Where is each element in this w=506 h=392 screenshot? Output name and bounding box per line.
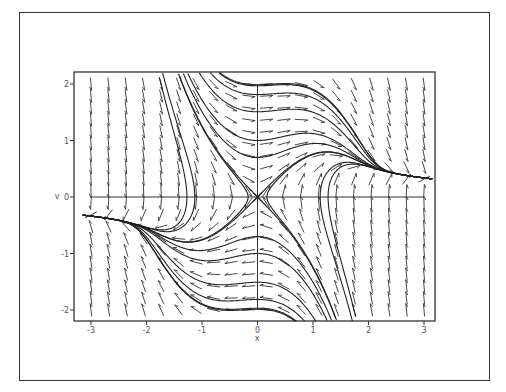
- arrowhead: [251, 169, 255, 170]
- field-arrow: [282, 185, 285, 198]
- arrowhead: [260, 260, 264, 261]
- field-arrow: [318, 185, 319, 198]
- field-arrow: [207, 285, 220, 287]
- trajectory-curve: [83, 215, 332, 320]
- field-arrow: [297, 257, 305, 267]
- y-tick-label: 2: [64, 80, 69, 89]
- field-arrow: [313, 105, 324, 111]
- field-arrow: [126, 196, 127, 209]
- arrowhead: [251, 145, 255, 146]
- trajectory-curve: [183, 74, 432, 179]
- trajectory-curve: [83, 215, 305, 321]
- arrowhead: [190, 260, 194, 261]
- field-arrow: [175, 305, 183, 315]
- field-arrow: [371, 185, 372, 198]
- field-arrow: [313, 80, 324, 87]
- field-arrow: [332, 79, 340, 89]
- x-axis-ticks: -3-2-10123: [87, 321, 427, 335]
- arrowhead: [260, 224, 264, 225]
- field-arrow: [226, 140, 236, 148]
- x-tick-label: 1: [310, 326, 315, 335]
- field-arrow: [225, 93, 237, 99]
- field-arrow: [123, 209, 129, 221]
- field-arrow: [314, 163, 324, 172]
- field-arrow: [243, 165, 255, 169]
- field-arrow: [279, 247, 289, 255]
- field-arrow: [172, 238, 185, 239]
- x-tick-label: 3: [421, 326, 426, 335]
- field-arrow: [353, 185, 354, 198]
- trajectory-curve: [220, 73, 432, 179]
- arrowhead: [321, 133, 325, 134]
- arrowhead: [302, 185, 303, 189]
- field-arrow: [91, 196, 92, 209]
- field-arrow: [336, 185, 337, 198]
- field-arrow: [157, 246, 165, 256]
- arrowhead: [251, 121, 255, 122]
- y-tick-label: -2: [61, 306, 69, 315]
- field-arrow: [209, 222, 219, 231]
- arrowhead: [191, 306, 195, 307]
- field-arrow: [161, 196, 162, 209]
- field-arrow: [210, 126, 218, 136]
- field-arrow: [278, 295, 290, 301]
- field-arrow: [178, 196, 179, 209]
- y-tick-label: 0: [64, 193, 69, 202]
- field-arrow: [143, 185, 144, 198]
- field-arrow: [213, 197, 215, 210]
- arrowhead: [260, 296, 264, 297]
- trajectory-curve: [219, 73, 433, 179]
- field-arrow: [389, 185, 390, 198]
- trajectory-curve: [83, 215, 295, 321]
- phase-portrait-plot: -3-2-10123 -2-1012 x v: [0, 0, 506, 392]
- field-arrow: [260, 249, 273, 251]
- arrowhead: [260, 248, 264, 249]
- field-arrow: [332, 115, 341, 124]
- field-arrow: [406, 185, 407, 198]
- field-arrow: [159, 209, 164, 221]
- field-arrow: [300, 185, 302, 198]
- field-arrow: [332, 91, 340, 101]
- field-arrow: [330, 155, 343, 156]
- field-arrow: [369, 173, 374, 185]
- y-axis-ticks: -2-1012: [61, 80, 74, 315]
- field-arrow: [225, 298, 238, 299]
- field-arrow: [316, 173, 321, 185]
- trajectory-curve: [83, 77, 187, 230]
- arrowhead: [207, 296, 211, 297]
- field-arrow: [174, 258, 184, 266]
- field-arrow: [297, 305, 306, 314]
- trajectory-curve: [83, 215, 316, 321]
- field-arrow: [260, 225, 272, 229]
- field-arrow: [313, 117, 325, 122]
- field-arrow: [295, 119, 308, 120]
- field-arrow: [242, 107, 255, 109]
- field-arrow: [331, 127, 341, 135]
- x-tick-label: 2: [366, 326, 371, 335]
- field-arrow: [260, 297, 273, 298]
- arrowhead: [212, 206, 213, 210]
- arrowhead: [304, 97, 308, 98]
- field-arrow: [386, 173, 392, 185]
- arrowhead: [285, 185, 286, 189]
- field-arrow: [243, 176, 254, 182]
- field-arrow: [191, 222, 201, 231]
- field-arrow: [260, 261, 273, 263]
- field-arrow: [350, 138, 358, 148]
- field-arrow: [141, 209, 146, 221]
- field-arrow: [176, 209, 181, 221]
- field-arrow: [226, 128, 237, 135]
- field-arrow: [226, 116, 237, 123]
- field-arrow: [334, 173, 339, 185]
- x-tick-label: -2: [143, 326, 151, 335]
- field-arrow: [313, 130, 326, 133]
- arrowhead: [229, 205, 230, 209]
- field-arrow: [175, 293, 183, 303]
- field-arrow: [277, 96, 290, 97]
- x-tick-label: -3: [87, 326, 95, 335]
- field-arrow: [242, 142, 255, 144]
- field-arrow: [108, 196, 109, 209]
- field-arrow: [211, 209, 217, 221]
- field-arrow: [209, 79, 218, 88]
- field-arrow: [260, 273, 273, 275]
